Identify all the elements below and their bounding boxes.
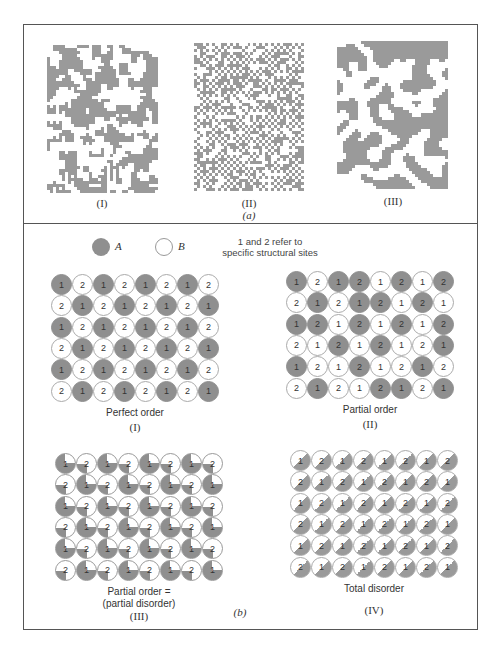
site-number: 1 — [382, 456, 387, 466]
site-number: 2 — [315, 362, 320, 372]
site-number: 1 — [298, 498, 303, 508]
site-number: 2 — [122, 365, 127, 375]
site-number: 1 — [185, 280, 190, 290]
site-number: 2 — [189, 480, 194, 490]
lattice-site: 1 — [198, 381, 219, 402]
lattice-site: 2 — [160, 453, 181, 474]
lattice-site: 2 — [437, 493, 458, 514]
lattice-site: 1 — [374, 450, 395, 471]
site-number: 1 — [315, 340, 320, 350]
site-number: 1 — [122, 343, 127, 353]
lattice-site: 2 — [433, 314, 454, 335]
site-number: 2 — [210, 501, 215, 511]
site-number: 1 — [101, 322, 106, 332]
site-number: 2 — [63, 565, 68, 575]
site-number: 2 — [210, 544, 215, 554]
site-number: 2 — [441, 319, 446, 329]
site-number: 1 — [315, 383, 320, 393]
site-number: 1 — [206, 343, 211, 353]
lattice-site: 1 — [328, 314, 349, 335]
site-number: 1 — [319, 562, 324, 572]
site-number: 2 — [378, 298, 383, 308]
site-number: 1 — [340, 541, 345, 551]
site-number: 1 — [340, 498, 345, 508]
site-number: 1 — [122, 386, 127, 396]
site-number: 2 — [63, 522, 68, 532]
lattice-site: 2 — [135, 338, 156, 359]
site-number: 2 — [105, 522, 110, 532]
part-a-label: (a) — [229, 209, 269, 221]
lattice-site: 1 — [76, 517, 97, 538]
site-number: 2 — [206, 280, 211, 290]
site-number: 1 — [294, 277, 299, 287]
site-number: 2 — [382, 519, 387, 529]
site-number: 2 — [101, 343, 106, 353]
site-number: 1 — [189, 459, 194, 469]
site-number: 1 — [399, 298, 404, 308]
site-number: 2 — [80, 365, 85, 375]
lattice-site: 2 — [156, 317, 177, 338]
lattice-site: 2 — [114, 317, 135, 338]
mosaic-panel-I — [47, 45, 158, 193]
lattice-site: 1 — [76, 560, 97, 581]
lattice-site: 1 — [290, 450, 311, 471]
lattice-site: 2 — [332, 514, 353, 535]
site-number: 2 — [424, 519, 429, 529]
site-number: 2 — [319, 498, 324, 508]
lattice-site: 1 — [135, 274, 156, 295]
site-number: 1 — [63, 544, 68, 554]
site-number: 1 — [126, 522, 131, 532]
lattice-site: 2 — [370, 378, 391, 399]
site-number: 2 — [143, 301, 148, 311]
lattice-site: 2 — [97, 560, 118, 581]
lattice-site: 1 — [72, 338, 93, 359]
site-number: 1 — [340, 456, 345, 466]
lattice-site: 2 — [290, 514, 311, 535]
site-number: 1 — [126, 480, 131, 490]
lattice-site: 2 — [412, 378, 433, 399]
site-number: 1 — [378, 362, 383, 372]
lattice-site: 2 — [311, 493, 332, 514]
site-number: 2 — [126, 459, 131, 469]
site-number: 2 — [59, 386, 64, 396]
panel-a-label-II: (II) — [229, 197, 269, 209]
lattice-site: 2 — [328, 335, 349, 356]
site-number: 1 — [168, 480, 173, 490]
site-number: 1 — [101, 365, 106, 375]
lattice-site: 1 — [55, 453, 76, 474]
lattice-site: 2 — [202, 453, 223, 474]
panel-a-label-I: (I) — [82, 197, 122, 209]
site-number: 2 — [294, 340, 299, 350]
site-number: 2 — [336, 383, 341, 393]
lattice-site: 2 — [311, 450, 332, 471]
site-number: 2 — [382, 477, 387, 487]
site-number: 2 — [185, 386, 190, 396]
site-number: 1 — [143, 322, 148, 332]
site-number: 2 — [147, 480, 152, 490]
lattice-site: 1 — [395, 557, 416, 578]
lattice-site: 2 — [76, 496, 97, 517]
site-number: 1 — [441, 298, 446, 308]
lattice-site: 1 — [177, 317, 198, 338]
site-number: 2 — [403, 498, 408, 508]
lattice-site: 1 — [328, 271, 349, 292]
lattice-site: 2 — [395, 493, 416, 514]
site-number: 2 — [399, 277, 404, 287]
site-number: 2 — [294, 383, 299, 393]
site-number: 2 — [210, 459, 215, 469]
site-number: 2 — [315, 277, 320, 287]
lattice-site: 1 — [139, 496, 160, 517]
lattice-site: 1 — [286, 271, 307, 292]
caption-grid-II: Partial order — [286, 404, 454, 416]
roman-grid-IV: (IV) — [290, 604, 458, 616]
lattice-site: 1 — [349, 335, 370, 356]
site-number: 2 — [101, 386, 106, 396]
lattice-site: 1 — [370, 314, 391, 335]
site-number: 1 — [63, 501, 68, 511]
lattice-site: 1 — [114, 338, 135, 359]
site-number: 1 — [122, 301, 127, 311]
legend-atom-b-swatch — [155, 238, 173, 256]
site-number: 2 — [298, 477, 303, 487]
lattice-site: 2 — [114, 274, 135, 295]
lattice-site: 2 — [395, 450, 416, 471]
